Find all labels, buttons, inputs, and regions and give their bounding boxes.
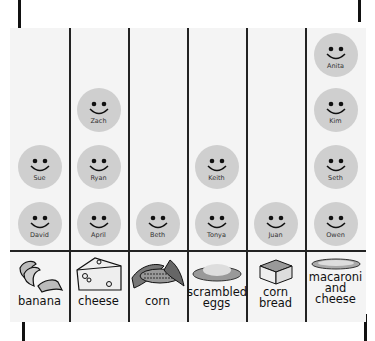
student-name: Juan [254,231,298,239]
frame-line-top-right [358,0,361,22]
student-name: Seth [314,174,358,182]
student-name: Tonya [195,231,239,239]
smiley-face-icon: Kim [314,88,358,132]
smiley-face-icon: Beth [136,202,180,246]
column-corn: Beth [128,28,187,250]
smiley-face-icon: Zach [77,88,121,132]
student-name: Beth [136,231,180,239]
food-category: cornbread [246,252,305,322]
smiley-face-icon: Tonya [195,202,239,246]
student-name: Zach [77,117,121,125]
student-name: April [77,231,121,239]
student-name: Ryan [77,174,121,182]
food-category: banana [10,252,69,322]
student-name: Owen [314,231,358,239]
food-label: macaroniandcheese [305,272,366,305]
food-label: banana [10,296,69,307]
food-label-line: eggs [187,298,246,309]
food-label-line: cheese [305,294,366,305]
cheese-icon [73,256,125,298]
frame-line-top-left [18,0,21,30]
student-name: Kim [314,117,358,125]
column-cheese: AprilRyanZach [69,28,128,250]
smiley-face-icon: Seth [314,145,358,189]
student-name: Keith [195,174,239,182]
smiley-face-icon: Keith [195,145,239,189]
pictograph-chart: DavidSuebananaAprilRyanZachcheeseBethcor… [10,28,366,322]
smiley-face-icon: April [77,202,121,246]
food-label: corn [128,296,187,307]
student-name: Anita [314,62,358,70]
food-label: cheese [69,296,128,307]
food-label-line: banana [10,296,69,307]
smiley-face-icon: Sue [18,145,62,189]
food-category: cheese [69,252,128,322]
smiley-face-icon: Anita [314,33,358,77]
banana-icon [14,256,66,298]
smiley-face-icon: Juan [254,202,298,246]
column-macaroni-and-cheese: OwenSethKimAnita [305,28,366,250]
smiley-face-icon: Ryan [77,145,121,189]
student-name: Sue [18,174,62,182]
column-scrambled-eggs: TonyaKeith [187,28,246,250]
food-label-line: cheese [69,296,128,307]
food-label-line: bread [246,298,305,309]
frame-line-bottom-left [22,322,25,341]
food-category: scrambledeggs [187,252,246,322]
column-corn-bread: Juan [246,28,305,250]
food-category: macaroniandcheese [305,252,366,322]
student-name: David [18,231,62,239]
smiley-face-icon: Owen [314,202,358,246]
food-label-line: corn [128,296,187,307]
column-banana: DavidSue [10,28,69,250]
food-label: scrambledeggs [187,287,246,309]
food-label: cornbread [246,287,305,309]
food-category: corn [128,252,187,322]
smiley-face-icon: David [18,202,62,246]
corn-icon [130,256,186,298]
